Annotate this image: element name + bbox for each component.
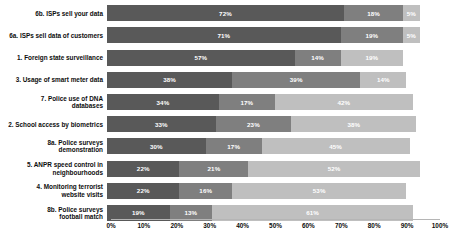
segment-value-label: 61% xyxy=(306,209,319,216)
chart-row: 1. Foreign state surveillance57%14%19% xyxy=(0,48,452,67)
stacked-bar: 57%14%19% xyxy=(107,50,436,66)
x-axis-tick: 60% xyxy=(302,222,315,229)
category-label: 6a. ISPs sell data of customers xyxy=(0,32,107,39)
category-label: 3. Usage of smart meter data xyxy=(0,76,107,83)
category-label: 6b. ISPs sell your data xyxy=(0,10,107,17)
bar-segment-segment-3: 38% xyxy=(291,116,416,132)
stacked-bar: 38%39%14% xyxy=(107,72,436,88)
segment-value-label: 17% xyxy=(227,143,240,150)
segment-value-label: 17% xyxy=(240,99,253,106)
chart-row: 6a. ISPs sell data of customers71%19%5% xyxy=(0,26,452,45)
segment-value-label: 30% xyxy=(150,143,163,150)
bar-segment-segment-1: 38% xyxy=(107,72,232,88)
bar-segment-segment-1: 33% xyxy=(107,116,216,132)
bar-segment-segment-3: 19% xyxy=(341,50,404,66)
segment-value-label: 22% xyxy=(137,187,150,194)
segment-value-label: 38% xyxy=(163,76,176,83)
stacked-bar: 33%23%38% xyxy=(107,116,436,132)
chart-rows: 6b. ISPs sell your data72%18%5%6a. ISPs … xyxy=(0,4,452,226)
bar-segment-segment-2: 21% xyxy=(179,161,248,177)
segment-value-label: 38% xyxy=(347,121,360,128)
stacked-bar: 22%21%52% xyxy=(107,161,436,177)
bar-segment-segment-2: 14% xyxy=(295,50,341,66)
segment-value-label: 19% xyxy=(132,209,145,216)
chart-row: 5. ANPR speed control in neighbourhoods2… xyxy=(0,159,452,178)
x-axis-tick: 30% xyxy=(203,222,216,229)
x-axis-line xyxy=(111,219,440,220)
chart-row: 2. School access by biometrics33%23%38% xyxy=(0,115,452,134)
x-axis-tick: 10% xyxy=(137,222,150,229)
chart-row: 8a. Police surveys demonstration30%17%45… xyxy=(0,137,452,156)
bar-segment-segment-2: 19% xyxy=(341,27,404,43)
bar-segment-segment-3: 5% xyxy=(403,27,419,43)
bar-segment-segment-2: 16% xyxy=(179,183,232,199)
bar-segment-segment-1: 57% xyxy=(107,50,295,66)
bar-segment-segment-1: 72% xyxy=(107,5,344,21)
bar-segment-segment-3: 53% xyxy=(232,183,406,199)
segment-value-label: 21% xyxy=(208,165,221,172)
stacked-bar-chart: 6b. ISPs sell your data72%18%5%6a. ISPs … xyxy=(0,0,452,245)
segment-value-label: 57% xyxy=(194,54,207,61)
chart-row: 7. Police use of DNA databases34%17%42% xyxy=(0,93,452,112)
category-label: 5. ANPR speed control in neighbourhoods xyxy=(0,161,107,176)
segment-value-label: 5% xyxy=(407,32,416,39)
chart-row: 4. Monitoring terrorist website visits22… xyxy=(0,182,452,201)
category-label: 4. Monitoring terrorist website visits xyxy=(0,183,107,198)
segment-value-label: 39% xyxy=(290,76,303,83)
category-label: 8b. Police surveys football match xyxy=(0,206,107,221)
segment-value-label: 19% xyxy=(365,32,378,39)
segment-value-label: 33% xyxy=(155,121,168,128)
x-axis-tick: 50% xyxy=(269,222,282,229)
bar-segment-segment-2: 18% xyxy=(344,5,403,21)
category-label: 8a. Police surveys demonstration xyxy=(0,139,107,154)
segment-value-label: 18% xyxy=(367,10,380,17)
bar-segment-segment-3: 42% xyxy=(275,94,413,110)
stacked-bar: 30%17%45% xyxy=(107,138,436,154)
x-axis-tick: 0% xyxy=(106,222,115,229)
bar-segment-segment-1: 22% xyxy=(107,161,179,177)
segment-value-label: 52% xyxy=(328,165,341,172)
bar-segment-segment-1: 22% xyxy=(107,183,179,199)
bar-segment-segment-3: 5% xyxy=(403,5,419,21)
x-axis-tick: 90% xyxy=(401,222,414,229)
segment-value-label: 53% xyxy=(313,187,326,194)
segment-value-label: 34% xyxy=(157,99,170,106)
bar-segment-segment-2: 17% xyxy=(219,94,275,110)
segment-value-label: 72% xyxy=(219,10,232,17)
chart-row: 3. Usage of smart meter data38%39%14% xyxy=(0,71,452,90)
bar-segment-segment-2: 23% xyxy=(216,116,292,132)
x-axis-tick: 100% xyxy=(432,222,448,229)
x-axis-tick: 70% xyxy=(335,222,348,229)
segment-value-label: 14% xyxy=(377,76,390,83)
x-axis-tick: 20% xyxy=(170,222,183,229)
bar-segment-segment-1: 30% xyxy=(107,138,206,154)
category-label: 2. School access by biometrics xyxy=(0,121,107,128)
segment-value-label: 22% xyxy=(137,165,150,172)
stacked-bar: 72%18%5% xyxy=(107,5,436,21)
chart-row: 6b. ISPs sell your data72%18%5% xyxy=(0,4,452,23)
bar-segment-segment-1: 71% xyxy=(107,27,341,43)
bar-segment-segment-3: 14% xyxy=(360,72,406,88)
bar-segment-segment-3: 45% xyxy=(262,138,410,154)
segment-value-label: 23% xyxy=(247,121,260,128)
bar-segment-segment-1: 34% xyxy=(107,94,219,110)
segment-value-label: 13% xyxy=(185,209,198,216)
bar-segment-segment-3: 52% xyxy=(248,161,419,177)
bar-segment-segment-2: 39% xyxy=(232,72,360,88)
segment-value-label: 45% xyxy=(329,143,342,150)
segment-value-label: 14% xyxy=(311,54,324,61)
stacked-bar: 34%17%42% xyxy=(107,94,436,110)
segment-value-label: 19% xyxy=(365,54,378,61)
stacked-bar: 22%16%53% xyxy=(107,183,436,199)
stacked-bar: 71%19%5% xyxy=(107,27,436,43)
category-label: 7. Police use of DNA databases xyxy=(0,95,107,110)
segment-value-label: 71% xyxy=(217,32,230,39)
segment-value-label: 5% xyxy=(407,10,416,17)
category-label: 1. Foreign state surveillance xyxy=(0,54,107,61)
x-axis-tick: 40% xyxy=(236,222,249,229)
x-axis-tick: 80% xyxy=(368,222,381,229)
bar-segment-segment-2: 17% xyxy=(206,138,262,154)
x-axis: 0%10%20%30%40%50%60%70%80%90%100% xyxy=(111,222,440,236)
segment-value-label: 16% xyxy=(199,187,212,194)
segment-value-label: 42% xyxy=(338,99,351,106)
